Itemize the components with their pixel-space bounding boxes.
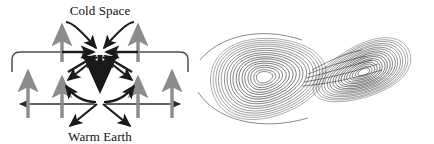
inflow-arc-upper-left <box>66 22 96 48</box>
convection-diagram-panel: Cold Space Warm Earth <box>0 0 200 144</box>
warm-descending-right <box>103 104 130 126</box>
inflow-arc-upper-right <box>104 22 134 48</box>
warm-descending-left <box>70 104 97 126</box>
lorenz-right-lobe <box>313 38 411 102</box>
lorenz-attractor-plot <box>190 0 434 144</box>
label-cold-space: Cold Space <box>70 3 131 18</box>
lorenz-left-lobe <box>211 38 326 119</box>
warm-outflow-arc-left <box>66 86 96 102</box>
lorenz-attractor-panel <box>190 0 434 144</box>
label-warm-earth: Warm Earth <box>68 129 132 144</box>
warm-outflow-arc-right <box>104 86 134 102</box>
figure-root: Cold Space Warm Earth <box>0 0 434 144</box>
